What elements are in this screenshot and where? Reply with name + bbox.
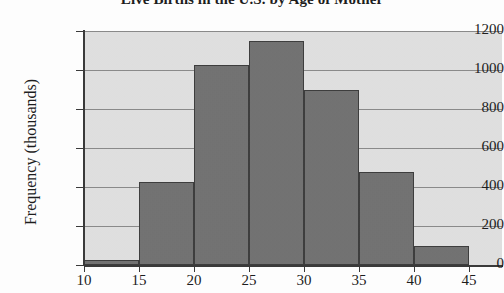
y-tick-label: 200 <box>432 216 504 233</box>
histogram-bar <box>359 172 414 265</box>
chart-title: Live Births in the U.S. by Age of Mother <box>0 0 504 8</box>
x-tick-mark <box>84 265 85 272</box>
y-tick-label: 800 <box>432 99 504 116</box>
x-tick-mark <box>139 265 140 272</box>
histogram-bar <box>139 182 194 265</box>
x-tick-label: 40 <box>394 272 434 289</box>
x-tick-label: 35 <box>339 272 379 289</box>
histogram-bar <box>194 65 249 265</box>
y-tick-mark <box>76 226 84 227</box>
x-tick-label: 25 <box>229 272 269 289</box>
x-tick-mark <box>469 265 470 272</box>
y-tick-label: 1000 <box>432 60 504 77</box>
y-tick-mark <box>76 70 84 71</box>
y-tick-label: 600 <box>432 138 504 155</box>
x-tick-mark <box>359 265 360 272</box>
y-tick-mark <box>76 148 84 149</box>
y-tick-mark <box>76 265 84 266</box>
x-tick-mark <box>249 265 250 272</box>
x-tick-label: 20 <box>174 272 214 289</box>
chart-figure: Live Births in the U.S. by Age of Mother… <box>0 0 504 293</box>
x-tick-mark <box>194 265 195 272</box>
x-tick-label: 30 <box>284 272 324 289</box>
y-tick-mark <box>76 187 84 188</box>
y-tick-label: 1200 <box>432 21 504 38</box>
y-axis-title: Frequency (thousands) <box>22 47 40 257</box>
histogram-bar <box>249 41 304 265</box>
x-tick-label: 45 <box>449 272 489 289</box>
y-tick-label: 400 <box>432 177 504 194</box>
x-tick-mark <box>304 265 305 272</box>
y-tick-mark <box>76 109 84 110</box>
histogram-bar <box>304 90 359 266</box>
y-tick-label: 0 <box>432 255 504 272</box>
x-tick-label: 10 <box>64 272 104 289</box>
y-tick-mark <box>76 31 84 32</box>
x-tick-mark <box>414 265 415 272</box>
x-tick-label: 15 <box>119 272 159 289</box>
